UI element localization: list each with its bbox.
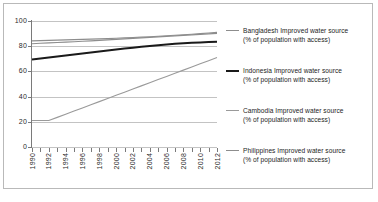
- y-axis-tick: [28, 147, 32, 148]
- legend-label-line1: Philippines Improved water source: [243, 147, 345, 154]
- legend-label-line2: (% of population with access): [243, 35, 348, 44]
- series-line: [32, 42, 217, 60]
- legend-label: Philippines Improved water source(% of p…: [243, 146, 345, 164]
- series-line: [32, 58, 217, 121]
- legend-item[interactable]: Philippines Improved water source(% of p…: [226, 146, 374, 164]
- legend-swatch: [226, 70, 239, 72]
- legend-item[interactable]: Cambodia Improved water source(% of popu…: [226, 106, 374, 124]
- legend-label: Indonesia Improved water source(% of pop…: [243, 66, 342, 84]
- legend-label-line2: (% of population with access): [243, 115, 343, 124]
- legend-label-line1: Bangladesh Improved water source: [243, 27, 348, 34]
- legend-swatch: [226, 150, 239, 151]
- legend-label-line2: (% of population with access): [243, 75, 342, 84]
- y-axis-tick: [28, 46, 32, 47]
- clipped-caption: [104, 196, 362, 202]
- legend-swatch: [226, 30, 239, 31]
- legend-label-line1: Indonesia Improved water source: [243, 67, 342, 74]
- legend-label-line1: Cambodia Improved water source: [243, 107, 343, 114]
- legend-item[interactable]: Bangladesh Improved water source(% of po…: [226, 26, 374, 44]
- y-axis-tick: [28, 122, 32, 123]
- legend-label-line2: (% of population with access): [243, 155, 345, 164]
- y-axis-tick: [28, 97, 32, 98]
- legend-label: Bangladesh Improved water source(% of po…: [243, 26, 348, 44]
- legend-item[interactable]: Indonesia Improved water source(% of pop…: [226, 66, 374, 84]
- chart-screenshot: 020406080100 199019921994199619982000200…: [0, 0, 378, 202]
- series-line: [32, 32, 217, 41]
- y-axis-tick: [28, 71, 32, 72]
- legend-swatch: [226, 110, 239, 111]
- legend-label: Cambodia Improved water source(% of popu…: [243, 106, 343, 124]
- y-axis-tick: [28, 21, 32, 22]
